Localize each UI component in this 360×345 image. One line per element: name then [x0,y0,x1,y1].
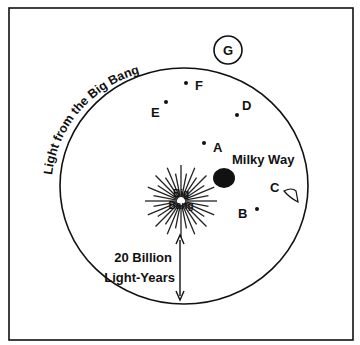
big-bang-label-line2: Bang [169,200,194,211]
galaxy-a-dot [202,141,206,145]
galaxy-a: A [202,140,223,155]
galaxy-f-dot [184,81,188,85]
galaxy-c-label: C [270,180,280,195]
galaxy-d-dot [235,113,239,117]
galaxy-g-label: G [223,43,233,58]
distance-arrow [176,235,184,300]
galaxy-e: E [151,100,168,120]
galaxy-b-label: B [238,206,247,221]
galaxy-g: G [214,36,242,64]
galaxy-a-label: A [213,140,223,155]
milky-way: Milky Way [213,152,295,188]
galaxy-c: C [270,180,298,202]
big-bang-label-line1: Big [173,188,189,199]
galaxy-c-shape [284,189,298,202]
galaxy-f-label: F [195,78,203,93]
galaxy-e-label: E [151,105,160,120]
galaxy-d: D [235,98,251,117]
galaxy-b: B [238,206,259,221]
galaxy-e-dot [164,100,168,104]
distance-label-line1: 20 Billion [114,250,172,265]
distance-label-line2: Light-Years [104,270,175,285]
milky-way-disc [213,168,235,188]
universe-diagram: Light from the Big Bang G F E D A B C Mi… [0,0,360,345]
arc-label: Light from the Big Bang [41,63,141,176]
galaxy-f: F [184,78,203,93]
milky-way-label: Milky Way [232,152,295,167]
galaxy-d-label: D [242,98,251,113]
galaxy-b-dot [255,207,259,211]
